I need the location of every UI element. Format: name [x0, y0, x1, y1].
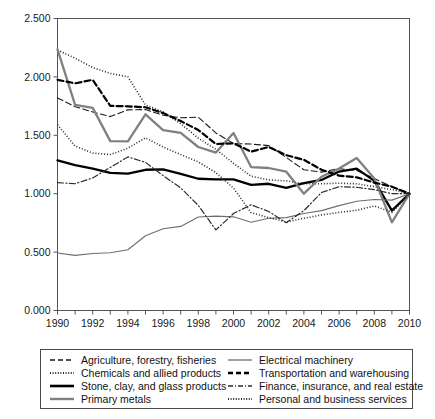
legend-item[interactable]: Primary metals [49, 392, 227, 405]
legend-label: Stone, clay, and glass products [81, 380, 226, 392]
x-tick-label: 1992 [81, 317, 105, 329]
legend-item[interactable]: Electrical machinery [227, 354, 412, 367]
legend-item[interactable]: Chemicals and allied products [49, 367, 227, 380]
axis-frame [58, 19, 410, 311]
x-tick-label: 2010 [398, 317, 422, 329]
y-tick-label: 2.500 [24, 12, 50, 24]
series-line [58, 194, 410, 256]
y-tick-label: 1.000 [24, 187, 50, 199]
legend-item[interactable]: Transportation and warehousing [227, 367, 412, 380]
legend-label: Finance, insurance, and real estate [259, 380, 423, 392]
x-tick-label: 1998 [187, 317, 211, 329]
series-line [58, 80, 410, 194]
x-tick-label: 1994 [116, 317, 140, 329]
x-axis-ticks [58, 311, 410, 315]
y-tick-label: 1.500 [24, 129, 50, 141]
legend-swatch-dashed-bold [227, 367, 253, 379]
chart-figure: 0.0000.5001.0001.5002.0002.500 199019921… [0, 0, 435, 419]
legend-swatch-dotted-fine [49, 367, 75, 379]
data-series-group [58, 49, 410, 255]
legend-label: Agriculture, forestry, fisheries [81, 354, 216, 366]
legend-swatch-dashed-thin [49, 354, 75, 366]
y-axis-tick-labels: 0.0000.5001.0001.5002.0002.500 [24, 12, 50, 316]
x-tick-label: 2000 [222, 317, 246, 329]
x-tick-label: 1996 [151, 317, 175, 329]
legend-label: Personal and business services [259, 393, 407, 405]
x-tick-label: 2002 [257, 317, 281, 329]
y-tick-label: 2.000 [24, 71, 50, 83]
legend-label: Transportation and warehousing [259, 367, 409, 379]
x-tick-label: 2008 [363, 317, 387, 329]
y-tick-label: 0.000 [24, 304, 50, 316]
legend-swatch-solid-thin-gray [227, 354, 253, 366]
legend-swatch-dotted-fine [227, 393, 253, 405]
x-tick-label: 2004 [292, 317, 316, 329]
legend-label: Electrical machinery [259, 354, 353, 366]
legend-item[interactable]: Stone, clay, and glass products [49, 380, 227, 393]
y-tick-label: 0.500 [24, 246, 50, 258]
legend-swatch-solid-thick-black [49, 380, 75, 392]
legend-item[interactable]: Finance, insurance, and real estate [227, 380, 412, 393]
legend-item[interactable]: Agriculture, forestry, fisheries [49, 354, 227, 367]
legend-swatch-dashdot-thin [227, 380, 253, 392]
legend-column-left: Agriculture, forestry, fisheries Chemica… [41, 354, 227, 405]
chart-legend: Agriculture, forestry, fisheries Chemica… [40, 349, 413, 409]
x-axis-tick-labels: 1990199219941996199820002002200420062008… [46, 317, 422, 329]
legend-label: Chemicals and allied products [81, 367, 221, 379]
x-tick-label: 2006 [327, 317, 351, 329]
line-chart-plot: 0.0000.5001.0001.5002.0002.500 199019921… [0, 0, 435, 340]
legend-label: Primary metals [81, 393, 151, 405]
legend-swatch-solid-thick-gray [49, 393, 75, 405]
series-line [58, 49, 410, 222]
legend-column-right: Electrical machinery Transportation and … [227, 354, 412, 405]
y-axis-ticks [54, 19, 58, 311]
x-tick-label: 1990 [46, 317, 70, 329]
legend-item[interactable]: Personal and business services [227, 392, 412, 405]
